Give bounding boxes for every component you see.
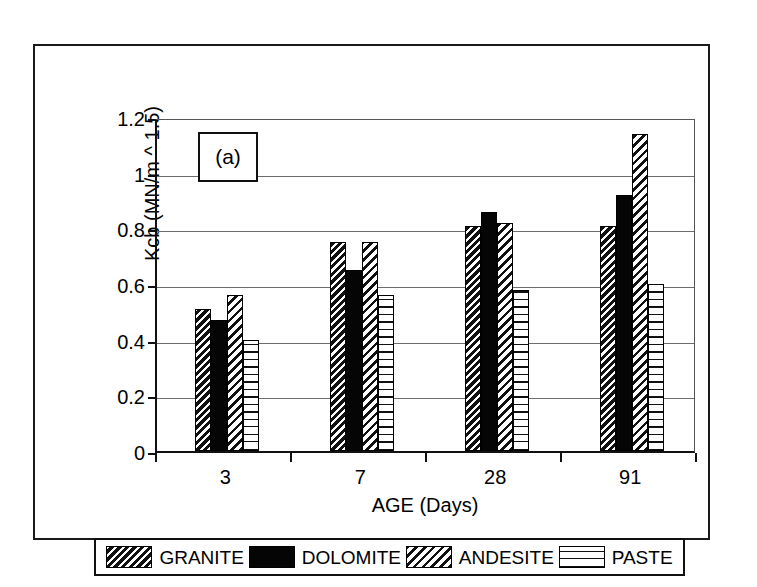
legend-label-andesite: ANDESITE xyxy=(459,548,554,567)
x-tick-mark xyxy=(560,453,562,462)
legend: GRANITEDOLOMITEANDESITEPASTE xyxy=(94,538,685,576)
bar-granite-3 xyxy=(195,309,211,451)
bar-granite-7 xyxy=(330,242,346,451)
x-axis-title: AGE (Days) xyxy=(155,494,695,517)
legend-label-dolomite: DOLOMITE xyxy=(302,548,401,567)
x-tick-label-28: 28 xyxy=(455,466,535,488)
y-tick-label: 0.2 xyxy=(75,387,145,407)
y-tick-label: 1.2 xyxy=(75,109,145,129)
legend-item-paste: PASTE xyxy=(559,546,673,568)
y-tick-label: 0.6 xyxy=(75,276,145,296)
x-tick-label-7: 7 xyxy=(320,466,400,488)
bar-dolomite-3 xyxy=(211,320,227,451)
x-tick-label-91: 91 xyxy=(590,466,670,488)
legend-swatch-andesite xyxy=(406,546,452,568)
y-tick-label: 0 xyxy=(75,443,145,463)
legend-label-granite: GRANITE xyxy=(159,548,243,567)
legend-item-andesite: ANDESITE xyxy=(406,546,554,568)
bar-andesite-91 xyxy=(632,134,648,451)
bar-paste-91 xyxy=(648,284,664,451)
x-tick-mark xyxy=(155,453,157,462)
bar-andesite-28 xyxy=(497,223,513,451)
legend-swatch-granite xyxy=(106,546,152,568)
bar-paste-28 xyxy=(513,290,529,451)
figure-frame: Kcb (MN/m ^ 1.5) 00.20.40.60.811.2 (a) 3… xyxy=(33,44,710,540)
bar-paste-7 xyxy=(378,295,394,451)
x-tick-mark xyxy=(425,453,427,462)
panel-label-text: (a) xyxy=(215,145,241,169)
x-tick-mark xyxy=(695,453,697,462)
y-tick-label: 0.8 xyxy=(75,220,145,240)
legend-swatch-paste xyxy=(559,546,605,568)
x-tick-mark xyxy=(290,453,292,462)
legend-swatch-dolomite xyxy=(249,546,295,568)
legend-item-granite: GRANITE xyxy=(106,546,243,568)
y-tick-label: 0.4 xyxy=(75,332,145,352)
legend-label-paste: PASTE xyxy=(612,548,673,567)
bar-dolomite-7 xyxy=(346,270,362,451)
bar-paste-3 xyxy=(243,340,259,451)
x-tick-label-3: 3 xyxy=(185,466,265,488)
bar-granite-91 xyxy=(600,226,616,451)
y-tick-label: 1 xyxy=(75,165,145,185)
bar-dolomite-28 xyxy=(481,212,497,451)
panel-label: (a) xyxy=(198,132,258,182)
legend-item-dolomite: DOLOMITE xyxy=(249,546,401,568)
bar-andesite-7 xyxy=(362,242,378,451)
bar-granite-28 xyxy=(465,226,481,451)
bar-andesite-3 xyxy=(227,295,243,451)
bar-dolomite-91 xyxy=(616,195,632,451)
